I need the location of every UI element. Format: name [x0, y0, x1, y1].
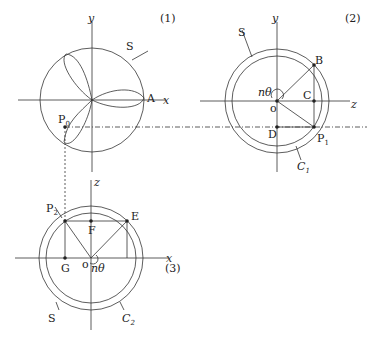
rose-petal-b [64, 54, 92, 100]
label-A: A [146, 92, 156, 105]
point-G [63, 256, 67, 260]
y-axis-label-2: y [271, 12, 279, 25]
x-axis-label-3: x [166, 252, 173, 265]
radius-OP1 [277, 101, 314, 127]
panel-2 [200, 22, 350, 172]
panel-1-number: (1) [160, 12, 176, 25]
label-o-2: o [270, 102, 277, 115]
point-P2 [63, 219, 67, 223]
label-P2: P2 [46, 202, 58, 217]
x-axis-label: x [163, 94, 170, 107]
radius-OE [91, 221, 127, 258]
label-ntheta-3: nθ [91, 262, 105, 275]
label-P0: P0 [58, 113, 70, 128]
panel-1 [18, 22, 367, 220]
label-S-3: S [48, 312, 56, 325]
label-F: F [88, 224, 96, 237]
label-S-2: S [238, 26, 246, 39]
z-axis-label-3: z [93, 176, 100, 189]
z-axis-label: z [350, 98, 357, 111]
point-F [89, 219, 93, 223]
point-C [312, 99, 316, 103]
diagram-canvas: (1) y x S A P0 (2) y z S B C D o nθ P1 C… [0, 0, 367, 345]
label-G: G [61, 262, 70, 275]
label-P1: P1 [317, 132, 329, 147]
panel-3 [15, 180, 168, 330]
point-E [125, 219, 129, 223]
label-D: D [268, 128, 277, 141]
label-E: E [131, 210, 139, 223]
label-ntheta-2: nθ [258, 86, 272, 99]
label-C: C [303, 89, 311, 102]
panel-2-number: (2) [345, 12, 361, 25]
label-S: S [126, 40, 134, 53]
s-leader-3 [56, 302, 59, 310]
s-leader [132, 51, 148, 60]
label-B: B [315, 54, 323, 67]
diagram-svg: (1) y x S A P0 (2) y z S B C D o nθ P1 C… [0, 0, 367, 345]
y-axis-label: y [87, 12, 95, 25]
label-o-3: o [82, 258, 89, 271]
rose-petal-a [92, 90, 144, 107]
c2-leader [120, 302, 124, 310]
point-P1 [312, 125, 316, 129]
label-C1: C1 [297, 160, 310, 175]
label-C2: C2 [122, 312, 135, 327]
